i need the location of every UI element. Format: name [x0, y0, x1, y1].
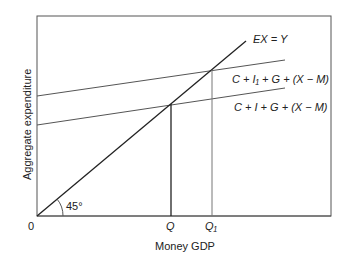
x-axis-label: Money GDP — [155, 240, 215, 252]
q1-label: Q₁ — [205, 220, 218, 232]
ex-y-label: EX = Y — [253, 33, 288, 45]
q-label: Q — [166, 220, 175, 232]
plot-frame — [37, 16, 331, 216]
ae-high-label: C + I₁ + G + (X − M) — [232, 73, 329, 85]
ex-equals-y-line — [37, 41, 246, 216]
ae-low-label: C + I + G + (X − M) — [234, 101, 328, 113]
angle-label: 45° — [66, 200, 83, 212]
expenditure-diagram: 45° 0 Q Q₁ Money GDP Aggregate expenditu… — [0, 0, 346, 263]
y-axis-label: Aggregate expenditure — [21, 69, 33, 180]
origin-label: 0 — [28, 220, 34, 232]
angle-arc — [57, 199, 63, 216]
